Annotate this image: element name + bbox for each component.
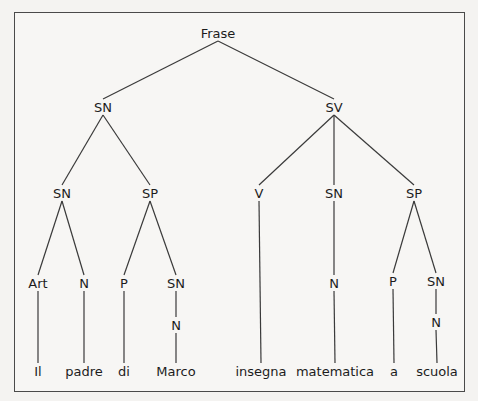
word-marco: Marco	[156, 365, 195, 378]
node-n2: N	[171, 319, 181, 332]
tree-edges	[0, 0, 478, 401]
node-p2: P	[389, 275, 397, 288]
node-v: V	[255, 187, 264, 200]
tree-edge	[124, 201, 150, 275]
word-il: Il	[34, 365, 41, 378]
word-padre: padre	[65, 365, 103, 378]
tree-edge	[334, 115, 414, 185]
node-sp2: SP	[406, 187, 422, 200]
word-a: a	[390, 365, 398, 378]
node-n1: N	[79, 277, 89, 290]
word-scuola: scuola	[416, 365, 458, 378]
node-sn4: SN	[167, 277, 185, 290]
node-sn5: SN	[427, 275, 445, 288]
node-sp1: SP	[142, 187, 158, 200]
tree-edge	[259, 201, 261, 363]
node-sv: SV	[325, 101, 342, 114]
node-art: Art	[28, 277, 47, 290]
node-n4: N	[431, 316, 441, 329]
word-matematica: matematica	[296, 365, 374, 378]
tree-edge	[62, 115, 103, 185]
tree-edge	[103, 41, 218, 99]
node-frase: Frase	[201, 27, 236, 40]
tree-edge	[150, 201, 176, 275]
tree-edge	[62, 201, 84, 275]
tree-edge	[393, 289, 394, 363]
tree-edge	[218, 41, 334, 99]
tree-edge	[436, 330, 437, 363]
node-sn2: SN	[53, 187, 71, 200]
tree-edge	[393, 201, 414, 273]
node-n3: N	[329, 277, 339, 290]
tree-edge	[38, 201, 62, 275]
node-sn3: SN	[325, 187, 343, 200]
tree-edge	[414, 201, 436, 273]
word-di: di	[118, 365, 130, 378]
node-sn1: SN	[94, 101, 112, 114]
tree-edge	[259, 115, 334, 185]
node-p1: P	[120, 277, 128, 290]
tree-edge	[334, 291, 335, 363]
word-insegna: insegna	[235, 365, 286, 378]
tree-edge	[103, 115, 150, 185]
